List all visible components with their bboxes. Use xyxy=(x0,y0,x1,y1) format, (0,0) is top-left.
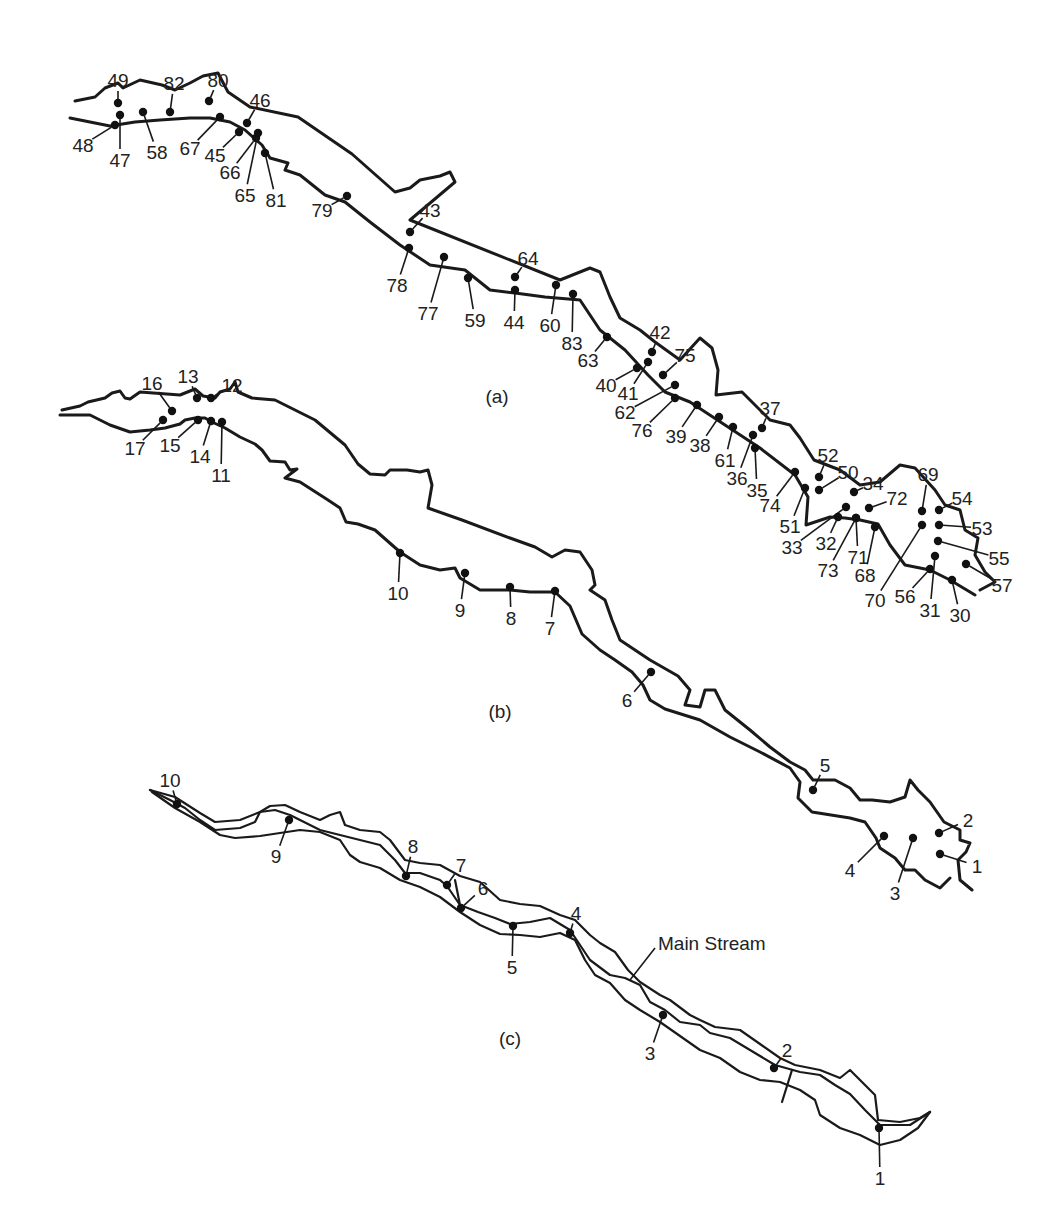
leader-line xyxy=(654,1019,662,1043)
sample-dot xyxy=(207,394,215,402)
leader-line xyxy=(858,839,881,862)
point-label: 50 xyxy=(837,462,858,483)
point-label: 15 xyxy=(159,435,180,456)
leader-line xyxy=(953,584,958,604)
sampling-point: 61 xyxy=(714,423,737,471)
sample-dot xyxy=(962,560,970,568)
point-label: 58 xyxy=(146,142,167,163)
sampling-point: 82 xyxy=(163,73,184,116)
sampling-point: 12 xyxy=(207,375,243,402)
point-label: 32 xyxy=(815,533,836,554)
point-label: 67 xyxy=(179,138,200,159)
point-label: 10 xyxy=(159,770,180,791)
sample-dot xyxy=(114,99,122,107)
sampling-point: 46 xyxy=(243,90,271,127)
leader-line xyxy=(449,874,454,882)
point-label: 5 xyxy=(507,957,518,978)
sample-dot xyxy=(139,108,147,116)
sampling-point: 13 xyxy=(177,366,201,402)
sample-dot xyxy=(865,504,873,512)
sample-dot xyxy=(815,486,823,494)
point-label: 82 xyxy=(163,73,184,94)
leader-line xyxy=(879,1132,880,1167)
sample-dot xyxy=(715,413,723,421)
sample-dot xyxy=(875,1124,883,1132)
sample-dot xyxy=(729,423,737,431)
point-label: 56 xyxy=(894,586,915,607)
point-label: 9 xyxy=(271,846,282,867)
sample-dot xyxy=(566,929,574,937)
point-label: 59 xyxy=(464,310,485,331)
leader-line xyxy=(873,502,887,507)
sample-dot xyxy=(935,829,943,837)
panel-caption: (b) xyxy=(488,701,511,722)
leader-line xyxy=(831,521,837,533)
sampling-point: 6 xyxy=(622,668,655,711)
point-label: 6 xyxy=(622,690,633,711)
leader-line xyxy=(616,370,634,380)
outline-lower xyxy=(70,118,975,595)
point-label: 5 xyxy=(820,755,831,776)
sample-dot xyxy=(934,537,942,545)
sample-dot xyxy=(111,121,119,129)
leader-line xyxy=(650,401,672,423)
point-label: 63 xyxy=(577,350,598,371)
sampling-point: 7 xyxy=(545,587,559,639)
point-label: 42 xyxy=(649,322,670,343)
panel-c-stream-map: 10987654321Main Stream(c) xyxy=(150,770,930,1189)
sampling-point: 30 xyxy=(948,576,971,626)
point-label: 8 xyxy=(408,836,419,857)
leader-line xyxy=(728,431,732,449)
sample-dot xyxy=(659,371,667,379)
point-label: 79 xyxy=(311,200,332,221)
sampling-point: 2 xyxy=(935,810,973,837)
leader-line xyxy=(923,485,927,507)
point-label: 78 xyxy=(386,275,407,296)
sample-dot xyxy=(464,274,472,282)
sample-dot xyxy=(194,416,202,424)
leader-line xyxy=(512,930,513,956)
leader-line xyxy=(203,425,210,446)
leader-line xyxy=(572,298,573,332)
point-label: 8 xyxy=(506,608,517,629)
sample-dot xyxy=(193,394,201,402)
leader-line xyxy=(407,857,411,872)
stream-inner xyxy=(150,790,930,1125)
sample-dot xyxy=(173,800,181,808)
sample-dot xyxy=(440,253,448,261)
panel-caption: (a) xyxy=(485,386,508,407)
point-label: 57 xyxy=(991,575,1012,596)
sample-dot xyxy=(770,1064,778,1072)
point-label: 55 xyxy=(988,548,1009,569)
sampling-point: 9 xyxy=(271,816,293,867)
sample-dot xyxy=(552,281,560,289)
point-label: 69 xyxy=(917,464,938,485)
leader-line xyxy=(635,387,672,407)
sample-dot xyxy=(159,416,167,424)
sample-dot xyxy=(852,514,860,522)
point-label: 54 xyxy=(951,488,973,509)
point-label: 38 xyxy=(689,435,710,456)
sampling-point: 55 xyxy=(934,537,1010,569)
point-label: 64 xyxy=(517,248,539,269)
point-label: 48 xyxy=(72,135,93,156)
point-label: 9 xyxy=(455,600,466,621)
leader-line xyxy=(942,542,989,555)
leader-line xyxy=(280,824,288,846)
point-label: 80 xyxy=(207,70,228,91)
point-label: 7 xyxy=(456,855,467,876)
point-label: 44 xyxy=(503,312,525,333)
sampling-point: 4 xyxy=(845,832,888,881)
leader-line xyxy=(763,418,765,424)
panel-caption: (c) xyxy=(499,1028,521,1049)
sample-dot xyxy=(871,523,879,531)
leader-line xyxy=(400,252,407,275)
leader-line xyxy=(266,157,274,189)
leader-line xyxy=(741,439,752,468)
sampling-point: 5 xyxy=(507,922,518,978)
point-label: 4 xyxy=(571,903,582,924)
point-label: 12 xyxy=(221,375,242,396)
sample-dot xyxy=(751,444,759,452)
sampling-point: 37 xyxy=(758,398,781,432)
point-label: 1 xyxy=(875,1168,886,1189)
